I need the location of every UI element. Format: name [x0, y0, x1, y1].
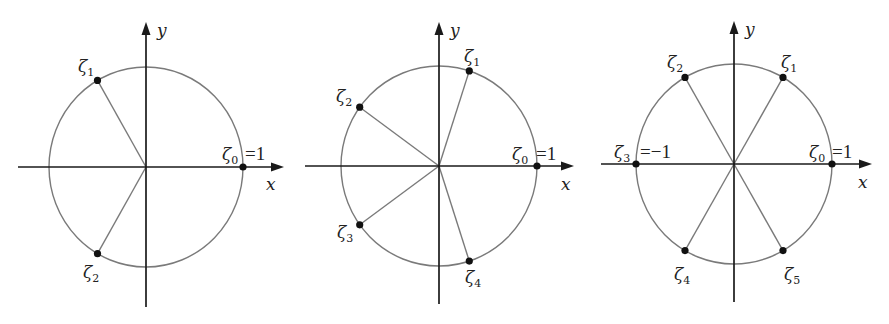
radius-spoke: [98, 167, 147, 254]
root-point: [94, 77, 101, 84]
root-label: ζ2: [667, 52, 683, 75]
y-axis-label: y: [449, 20, 460, 40]
root-label: ζ2: [83, 262, 99, 285]
x-axis-label: x: [858, 172, 868, 192]
radius-spoke: [439, 71, 469, 166]
x-axis-label: x: [561, 174, 571, 194]
root-label: ζ1: [781, 52, 797, 75]
root-label: ζ3: [337, 222, 353, 245]
root-label: ζ0: [809, 142, 825, 165]
root-label: ζ1: [78, 56, 94, 79]
root-value-label: =−1: [640, 141, 671, 162]
root-label: ζ3: [614, 142, 630, 165]
root-label: ζ0: [512, 144, 528, 167]
root-label: ζ1: [464, 46, 480, 69]
diagram-fifth-roots-of-unity: xyζ0=1ζ1ζ2ζ3ζ4: [305, 20, 574, 304]
x-axis-arrow-icon: [561, 162, 574, 171]
diagram-sixth-roots-of-unity: xyζ0=1ζ1ζ2ζ3=−1ζ4ζ5: [601, 19, 872, 302]
root-point: [466, 67, 473, 74]
root-point: [779, 74, 786, 81]
root-point: [466, 258, 473, 265]
root-value-label: =1: [245, 143, 265, 164]
root-value-label: =1: [536, 143, 556, 164]
root-point: [356, 104, 363, 111]
x-axis-label: x: [266, 174, 276, 194]
root-point: [239, 163, 246, 170]
root-point: [356, 221, 363, 228]
root-value-label: =1: [832, 141, 852, 162]
radius-spoke: [685, 77, 734, 164]
y-axis-label: y: [156, 20, 167, 40]
root-label: ζ0: [222, 144, 238, 167]
radius-spoke: [734, 77, 783, 164]
x-axis-arrow-icon: [859, 160, 872, 169]
root-label: ζ2: [336, 86, 352, 109]
root-point: [681, 247, 688, 254]
diagram-cube-roots-of-unity: xyζ0=1ζ1ζ2: [18, 20, 284, 307]
radius-spoke: [685, 164, 734, 251]
radius-spoke: [98, 80, 147, 167]
root-point: [779, 247, 786, 254]
radius-spoke: [360, 107, 439, 166]
root-label: ζ5: [784, 264, 800, 287]
y-axis-arrow-icon: [435, 22, 444, 35]
root-point: [632, 160, 639, 167]
root-label: ζ4: [674, 264, 690, 287]
y-axis-arrow-icon: [142, 22, 151, 35]
radius-spoke: [360, 166, 439, 225]
roots-of-unity-figure: xyζ0=1ζ1ζ2 xyζ0=1ζ1ζ2ζ3ζ4 xyζ0=1ζ1ζ2ζ3=−…: [0, 0, 889, 324]
y-axis-arrow-icon: [730, 21, 739, 34]
root-label: ζ4: [465, 267, 481, 290]
y-axis-label: y: [744, 19, 755, 39]
x-axis-arrow-icon: [271, 163, 284, 172]
radius-spoke: [734, 164, 783, 251]
radius-spoke: [439, 166, 469, 261]
root-point: [94, 250, 101, 257]
